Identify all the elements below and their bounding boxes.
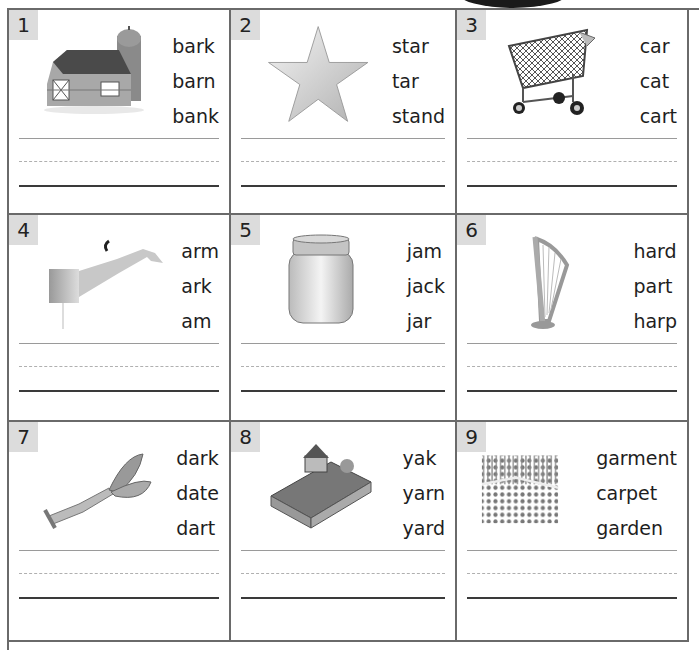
worksheet-cell-3: 3 car cat cart — [457, 10, 689, 215]
decorative-header-shape — [458, 0, 568, 8]
word-choice[interactable]: bank — [172, 102, 219, 130]
baseline — [19, 597, 219, 599]
word-choice[interactable]: hard — [633, 237, 677, 265]
top-line — [241, 550, 445, 551]
worksheet-cell-5: 5 jam jack jar — [231, 215, 457, 422]
harp-icon — [487, 229, 617, 329]
top-line — [467, 550, 677, 551]
worksheet-cell-6: 6 hard part harp — [457, 215, 689, 422]
word-choice[interactable]: yard — [403, 514, 445, 542]
word-choices: bark barn bank — [172, 32, 219, 130]
item-number: 6 — [457, 215, 486, 245]
word-choice[interactable]: date — [176, 479, 219, 507]
word-choices: jam jack jar — [407, 237, 445, 335]
word-choice[interactable]: garden — [596, 514, 677, 542]
word-choice[interactable]: am — [181, 307, 219, 335]
top-line — [19, 138, 219, 139]
word-choice[interactable]: yak — [403, 444, 445, 472]
arm-icon — [39, 229, 169, 329]
word-choice[interactable]: arm — [181, 237, 219, 265]
top-line — [241, 138, 445, 139]
baseline — [19, 390, 219, 392]
word-choices: yak yarn yard — [403, 444, 445, 542]
handwriting-lines[interactable] — [19, 343, 219, 403]
word-choice[interactable]: dark — [176, 444, 219, 472]
midline — [467, 366, 677, 367]
midline — [19, 573, 219, 574]
item-number: 5 — [231, 215, 260, 245]
baseline — [467, 597, 677, 599]
handwriting-lines[interactable] — [19, 550, 219, 610]
midline — [19, 366, 219, 367]
midline — [241, 573, 445, 574]
yard-icon — [261, 436, 391, 536]
worksheet-cell-4: 4 arm ark am — [9, 215, 231, 422]
handwriting-lines[interactable] — [467, 138, 677, 198]
baseline — [467, 185, 677, 187]
midline — [467, 573, 677, 574]
handwriting-lines[interactable] — [241, 138, 445, 198]
word-choice[interactable]: barn — [172, 67, 219, 95]
top-line — [467, 343, 677, 344]
item-number: 8 — [231, 422, 260, 452]
baseline — [241, 390, 445, 392]
word-choice[interactable]: star — [392, 32, 445, 60]
item-number: 3 — [457, 10, 486, 40]
word-choice[interactable]: tar — [392, 67, 445, 95]
item-number: 1 — [9, 10, 38, 40]
top-line — [19, 550, 219, 551]
word-choices: star tar stand — [392, 32, 445, 130]
word-choice[interactable]: stand — [392, 102, 445, 130]
baseline — [467, 390, 677, 392]
midline — [241, 161, 445, 162]
word-choices: garment carpet garden — [596, 444, 677, 542]
word-choice[interactable]: part — [633, 272, 677, 300]
dart-icon — [39, 436, 169, 536]
worksheet-cell-2: 2 star tar stand — [231, 10, 457, 215]
handwriting-lines[interactable] — [19, 138, 219, 198]
garden-icon — [465, 436, 575, 536]
handwriting-lines[interactable] — [241, 343, 445, 403]
word-choices: arm ark am — [181, 237, 219, 335]
star-icon — [261, 24, 391, 124]
word-choice[interactable]: jack — [407, 272, 445, 300]
baseline — [19, 185, 219, 187]
item-number: 7 — [9, 422, 38, 452]
worksheet-cell-8: 8 yak yarn yard — [231, 422, 457, 642]
word-choice[interactable]: jam — [407, 237, 445, 265]
midline — [467, 161, 677, 162]
word-choices: hard part harp — [633, 237, 677, 335]
worksheet-cell-1: 1 bark barn bank — [9, 10, 231, 215]
word-choice[interactable]: jar — [407, 307, 445, 335]
worksheet-cell-9: 9 garment carpet garden — [457, 422, 689, 642]
baseline — [241, 185, 445, 187]
word-choices: dark date dart — [176, 444, 219, 542]
word-choice[interactable]: cat — [640, 67, 677, 95]
jar-icon — [261, 229, 391, 329]
midline — [19, 161, 219, 162]
word-choice[interactable]: ark — [181, 272, 219, 300]
worksheet-cell-7: 7 dark date dart — [9, 422, 231, 642]
word-choice[interactable]: garment — [596, 444, 677, 472]
barn-icon — [39, 24, 169, 124]
word-choices: car cat cart — [640, 32, 677, 130]
worksheet-grid: 1 bark barn bank 2 — [7, 8, 699, 650]
word-choice[interactable]: car — [640, 32, 677, 60]
top-line — [467, 138, 677, 139]
handwriting-lines[interactable] — [467, 343, 677, 403]
handwriting-lines[interactable] — [467, 550, 677, 610]
handwriting-lines[interactable] — [241, 550, 445, 610]
word-choice[interactable]: carpet — [596, 479, 677, 507]
word-choice[interactable]: yarn — [403, 479, 445, 507]
top-line — [19, 343, 219, 344]
top-line — [241, 343, 445, 344]
word-choice[interactable]: bark — [172, 32, 219, 60]
midline — [241, 366, 445, 367]
word-choice[interactable]: dart — [176, 514, 219, 542]
item-number: 4 — [9, 215, 38, 245]
baseline — [241, 597, 445, 599]
word-choice[interactable]: harp — [633, 307, 677, 335]
item-number: 2 — [231, 10, 260, 40]
word-choice[interactable]: cart — [640, 102, 677, 130]
shopping-cart-icon — [487, 24, 617, 124]
